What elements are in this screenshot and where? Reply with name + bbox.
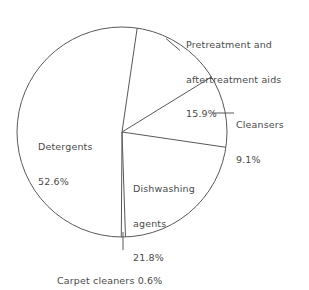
slice-divider-carpet-detergents <box>121 132 122 237</box>
slice-label-pretreatment-line2: aftertreatment aids <box>186 74 281 86</box>
slice-label-dishwashing-line2: agents <box>133 218 195 230</box>
slice-label-carpet-cleaners: Carpet cleaners 0.6% <box>57 252 162 290</box>
slice-label-detergents-value: 52.6% <box>38 176 93 188</box>
slice-label-cleansers-line1: Cleansers <box>236 119 284 131</box>
slice-label-cleansers-value: 9.1% <box>236 154 284 166</box>
slice-label-detergents: Detergents 52.6% <box>38 118 93 210</box>
slice-label-pretreatment-line1: Pretreatment and <box>186 39 281 51</box>
slice-label-detergents-line1: Detergents <box>38 141 93 153</box>
slice-label-carpet-cleaners-line1: Carpet cleaners 0.6% <box>57 275 162 287</box>
slice-divider-dishwashing-carpet <box>122 132 126 237</box>
slice-label-cleansers: Cleansers 9.1% <box>236 96 284 188</box>
slice-label-dishwashing-line1: Dishwashing <box>133 183 195 195</box>
slice-divider-detergents-pretreatment <box>122 28 137 132</box>
